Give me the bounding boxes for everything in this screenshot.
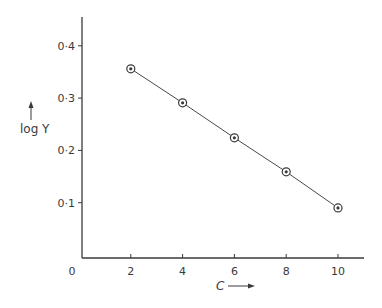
y-tick-label: 0·1 [58,197,76,210]
chart-canvas: 0·10·20·30·4 246810 0 log Y C [0,0,382,308]
y-axis-label: log Y [20,122,50,136]
data-point [334,204,342,212]
x-tick-label: 4 [179,265,186,278]
axes [82,17,364,258]
x-tick-label: 6 [231,265,238,278]
x-axis-label-group: C [216,279,255,293]
data-point [282,168,290,176]
y-ticks: 0·10·20·30·4 [58,40,83,210]
y-tick-label: 0·3 [58,92,76,105]
data-series [127,65,342,212]
origin-label: 0 [69,265,76,278]
right-arrowhead-icon [248,284,255,289]
y-tick-label: 0·4 [58,40,76,53]
x-tick-label: 10 [331,265,345,278]
x-tick-label: 8 [283,265,290,278]
data-point [127,65,135,73]
y-axis-label-group: log Y [20,101,50,136]
x-tick-label: 2 [127,265,134,278]
x-axis-label: C [216,279,225,293]
data-point [179,99,187,107]
up-arrowhead-icon [29,101,34,108]
data-point [230,134,238,142]
y-tick-label: 0·2 [58,144,76,157]
y-axis-label-text: log Y [20,122,50,136]
